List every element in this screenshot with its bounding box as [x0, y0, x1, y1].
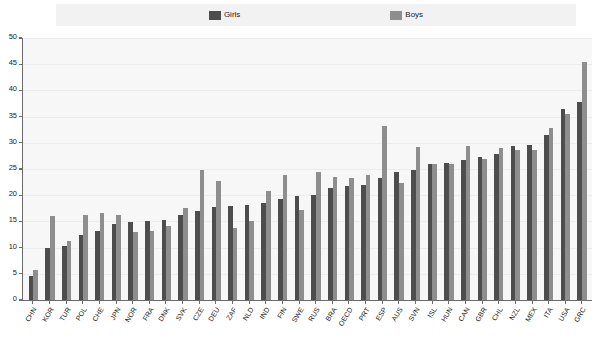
x-axis-tick: FIN: [274, 300, 291, 349]
x-axis-tick-mark: [99, 300, 100, 304]
x-axis-tick: TUR: [57, 300, 74, 349]
x-axis-tick: CHN: [24, 300, 41, 349]
legend-entry-girls: Girls: [209, 11, 240, 20]
y-axis-tick-label: 0: [13, 295, 17, 303]
y-axis: 05101520253035404550: [0, 36, 22, 300]
chart-screenshot: Girls Boys 05101520253035404550 CHNKORTU…: [0, 0, 594, 349]
x-axis-tick-mark: [116, 300, 117, 304]
bar-boys-esp: [382, 126, 387, 300]
bar-groups: [23, 38, 592, 300]
x-axis-tick-label: OECD: [338, 306, 355, 327]
x-axis-tick-label: FRA: [141, 306, 155, 322]
bar-group: [274, 38, 291, 300]
bar-boys-rus: [316, 172, 321, 300]
legend-label-girls: Girls: [224, 11, 240, 19]
x-axis-tick-label: RUS: [307, 306, 321, 323]
x-axis-tick-mark: [232, 300, 233, 304]
bar-group: [540, 38, 557, 300]
y-axis-tick-label: 5: [13, 269, 17, 277]
bar-boys-isl: [432, 164, 437, 300]
x-axis-tick-mark: [432, 300, 433, 304]
x-axis-tick: CHL: [490, 300, 507, 349]
x-axis-tick: POL: [74, 300, 91, 349]
x-axis-tick: SWE: [290, 300, 307, 349]
x-axis-tick-label: NOR: [124, 306, 138, 323]
bar-group: [308, 38, 325, 300]
bar-group: [141, 38, 158, 300]
x-axis-tick-label: BRA: [324, 306, 338, 322]
x-axis-tick-mark: [215, 300, 216, 304]
x-axis-tick: NOR: [124, 300, 141, 349]
legend-label-boys: Boys: [405, 11, 423, 19]
bar-boys-oecd: [349, 178, 354, 300]
x-axis-tick-label: CZE: [191, 306, 205, 322]
x-axis-tick-label: ESP: [374, 306, 388, 322]
bar-boys-chl: [499, 148, 504, 300]
x-axis-tick: BRA: [324, 300, 341, 349]
x-axis-tick-label: USA: [557, 306, 571, 322]
x-axis-tick-mark: [282, 300, 283, 304]
x-axis-tick-label: IND: [259, 306, 271, 320]
bar-boys-nld: [249, 221, 254, 300]
x-axis-tick-label: SWE: [290, 306, 305, 323]
bar-boys-dnk: [166, 226, 171, 300]
x-axis-tick-mark: [498, 300, 499, 304]
bar-group: [457, 38, 474, 300]
y-axis-tick-label: 40: [9, 85, 17, 93]
bar-boys-chn: [33, 270, 38, 300]
bar-boys-gbr: [482, 159, 487, 300]
x-axis-tick: ZAF: [224, 300, 241, 349]
bar-boys-nzl: [515, 150, 520, 300]
bar-boys-kor: [50, 216, 55, 300]
legend-entry-boys: Boys: [390, 11, 423, 20]
bar-boys-grc: [582, 62, 587, 300]
bar-group: [474, 38, 491, 300]
bar-group: [491, 38, 508, 300]
x-axis-tick-mark: [448, 300, 449, 304]
x-axis-tick-label: GBR: [473, 306, 487, 323]
bar-boys-deu: [216, 181, 221, 300]
plot-area: [22, 38, 592, 301]
plot-wrapper: 05101520253035404550 CHNKORTURPOLCHEJPNN…: [0, 36, 594, 349]
x-axis-tick-label: NZL: [508, 306, 521, 321]
x-axis-tick-mark: [532, 300, 533, 304]
x-axis-tick-mark: [332, 300, 333, 304]
bar-boys-hun: [449, 164, 454, 300]
x-axis-tick-mark: [581, 300, 582, 304]
bar-boys-can: [466, 146, 471, 300]
x-axis-tick-mark: [49, 300, 50, 304]
x-axis-tick: NLD: [240, 300, 257, 349]
bar-group: [441, 38, 458, 300]
x-axis-tick: HUN: [440, 300, 457, 349]
x-axis-tick-mark: [199, 300, 200, 304]
bar-boys-swe: [299, 210, 304, 300]
x-axis-tick-label: ITA: [543, 306, 555, 319]
bar-group: [358, 38, 375, 300]
y-axis-tick-label: 25: [9, 164, 17, 172]
x-axis-tick-label: HUN: [440, 306, 454, 323]
x-axis-tick: ESP: [373, 300, 390, 349]
x-axis-tick-label: ISL: [426, 306, 438, 319]
bar-group: [25, 38, 42, 300]
bar-boys-pol: [83, 215, 88, 300]
bar-group: [524, 38, 541, 300]
x-axis-tick-label: FIN: [276, 306, 288, 320]
x-axis-tick-mark: [482, 300, 483, 304]
bar-group: [374, 38, 391, 300]
x-axis-tick-mark: [165, 300, 166, 304]
x-axis-tick-label: POL: [75, 306, 89, 322]
bar-group: [407, 38, 424, 300]
bar-group: [324, 38, 341, 300]
x-axis-tick-mark: [66, 300, 67, 304]
x-axis-tick-mark: [415, 300, 416, 304]
bar-group: [557, 38, 574, 300]
bar-group: [241, 38, 258, 300]
bar-group: [125, 38, 142, 300]
y-axis-tick-label: 20: [9, 190, 17, 198]
x-axis-tick-mark: [382, 300, 383, 304]
x-axis-tick-label: SVK: [174, 306, 188, 322]
x-axis-tick: KOR: [41, 300, 58, 349]
x-axis-tick-label: TUR: [58, 306, 72, 322]
x-axis-tick-label: GRC: [573, 306, 587, 323]
x-axis-tick: USA: [557, 300, 574, 349]
